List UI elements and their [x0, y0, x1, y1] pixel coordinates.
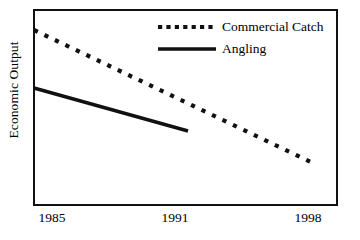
- legend-label-commercial-catch: Commercial Catch: [222, 16, 324, 38]
- y-axis-title: Economic Output: [4, 0, 24, 190]
- legend-item-angling: Angling: [158, 38, 333, 60]
- legend-label-angling: Angling: [222, 38, 266, 60]
- chart-legend: Commercial Catch Angling: [158, 16, 333, 60]
- x-axis-tick-label-1998: 1998: [283, 209, 333, 227]
- legend-swatch-solid-icon: [158, 38, 216, 60]
- chart-figure: Commercial Catch Angling Economic Output…: [0, 0, 360, 240]
- x-axis-tick-label-1985: 1985: [27, 209, 77, 227]
- legend-item-commercial-catch: Commercial Catch: [158, 16, 333, 38]
- x-axis-tick-label-1991: 1991: [150, 209, 200, 227]
- legend-swatch-dotted-icon: [158, 16, 216, 38]
